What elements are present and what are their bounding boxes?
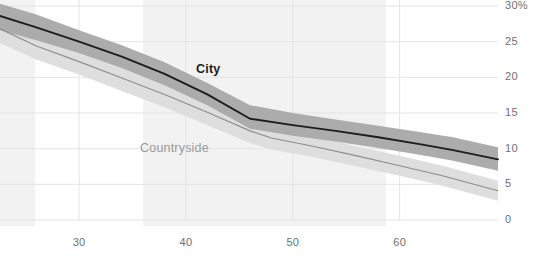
y-axis-tick-5: 5	[505, 177, 511, 189]
y-axis-tick-25: 25	[505, 35, 518, 47]
x-axis-tick-50: 50	[273, 236, 313, 248]
y-axis-tick-0: 0	[505, 213, 511, 225]
y-axis-tick-30: 30%	[505, 0, 528, 11]
chart-container: 30%252015105030405060CityCountryside	[0, 0, 537, 256]
x-axis-tick-60: 60	[380, 236, 420, 248]
y-axis-tick-20: 20	[505, 70, 518, 82]
x-axis-tick-40: 40	[166, 236, 206, 248]
series-annotation-countryside: Countryside	[140, 141, 209, 155]
x-axis-tick-30: 30	[59, 236, 99, 248]
y-axis-tick-15: 15	[505, 106, 518, 118]
y-axis-tick-10: 10	[505, 142, 518, 154]
series-annotation-city: City	[196, 62, 220, 76]
line-chart-plot	[0, 0, 537, 256]
